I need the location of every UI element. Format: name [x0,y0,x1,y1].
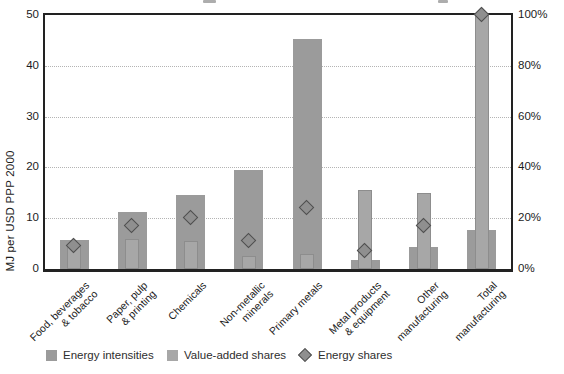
plot-area [43,13,513,272]
x-axis-category-label: Food, beverages& tobacco [27,279,100,352]
energy-intensity-bar [293,39,322,269]
legend-label: Energy shares [318,349,392,361]
gridline [45,117,511,118]
plot-inner [45,15,511,269]
legend-item-energy-intensities: Energy intensities [46,347,154,363]
x-axis-category-label: Othermanufacturing [386,279,450,343]
cropped-title-fragment [203,0,216,3]
value-added-share-bar [300,254,314,269]
axis-tick-label: 0% [518,261,558,275]
x-axis-category-label: Metal products& equipment [326,279,392,345]
axis-tick-label: 10 [7,210,39,224]
legend-label: Value-added shares [184,349,286,361]
axis-tick-label: 20% [518,210,558,224]
axis-tick-label: 40% [518,159,558,173]
axis-tick-label: 100% [518,7,558,21]
axis-tick-label: 40 [7,58,39,72]
legend-item-energy-shares: Energy shares [298,347,392,363]
axis-tick-label: 50 [7,7,39,21]
x-axis-category-label: Totalmanufacturing [444,279,508,343]
value-added-share-bar [184,241,198,269]
energy-shares-diamond-icon [298,348,312,362]
axis-tick-label: 30 [7,109,39,123]
energy-intensity-bar [234,170,263,269]
axis-tick-label: 80% [518,58,558,72]
axis-tick-label: 60% [518,109,558,123]
value-added-share-bar [125,239,139,269]
value-added-share-bar [475,15,489,269]
chart-figure: MJ per USD PPP 2000 01020304050 0%20%40%… [0,0,564,374]
x-axis-category-label: Primary metals [267,279,325,337]
axis-tick-label: 20 [7,159,39,173]
x-axis-category-label: Paper, pulp& printing [104,279,159,334]
value-added-share-bar [242,256,256,269]
gridline [45,66,511,67]
legend-item-value-added-shares: Value-added shares [167,347,286,363]
legend: Energy intensities Value-added shares En… [0,347,564,365]
x-axis-category-label: Chemicals [165,279,208,322]
value-added-shares-swatch-icon [167,350,178,361]
axis-tick-label: 0 [7,261,39,275]
cropped-title-fragment [438,0,448,3]
gridline [45,167,511,168]
gridline [45,218,511,219]
energy-intensities-swatch-icon [46,350,57,361]
legend-label: Energy intensities [63,349,154,361]
